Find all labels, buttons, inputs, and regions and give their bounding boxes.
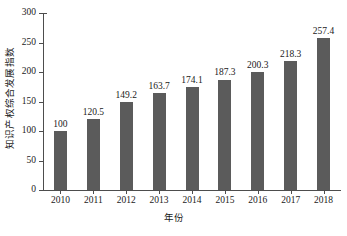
bar: [186, 87, 199, 190]
bar-value-label: 257.4: [302, 26, 346, 36]
x-tick-mark: [126, 191, 127, 194]
y-tick-mark: [39, 161, 43, 162]
y-tick-label: 200: [10, 67, 36, 77]
y-tick-mark: [39, 43, 43, 44]
x-tick-mark: [258, 191, 259, 194]
y-tick-label: 100: [10, 126, 36, 136]
x-tick-mark: [324, 191, 325, 194]
y-tick-mark: [39, 190, 43, 191]
x-tick-mark: [60, 191, 61, 194]
x-tick-mark: [291, 191, 292, 194]
bar-value-label: 200.3: [236, 60, 280, 70]
y-tick-label: 0: [10, 185, 36, 195]
bar: [54, 131, 67, 190]
plot-area: 100120.5149.2163.7174.1187.3200.3218.325…: [44, 13, 340, 190]
bar: [120, 102, 133, 190]
x-tick-mark: [159, 191, 160, 194]
x-tick-label: 2018: [304, 195, 344, 206]
bar-value-label: 149.2: [104, 90, 148, 100]
x-tick-mark: [192, 191, 193, 194]
bar: [153, 93, 166, 190]
bar-chart-figure: 知识产权综合发展指数 050100150200250300 100120.514…: [0, 0, 347, 236]
y-tick-label: 150: [10, 97, 36, 107]
x-axis-title: 年份: [0, 210, 347, 224]
y-tick-mark: [39, 13, 43, 14]
y-tick-label: 300: [10, 8, 36, 18]
x-tick-mark: [93, 191, 94, 194]
bar-value-label: 100: [38, 119, 82, 129]
bar: [284, 61, 297, 190]
y-tick-label: 250: [10, 38, 36, 48]
bar-value-label: 218.3: [269, 49, 313, 59]
bar: [251, 72, 264, 190]
bar: [218, 80, 231, 191]
bar: [317, 38, 330, 190]
bar: [87, 119, 100, 190]
y-tick-mark: [39, 102, 43, 103]
x-tick-mark: [225, 191, 226, 194]
y-tick-mark: [39, 131, 43, 132]
y-tick-mark: [39, 72, 43, 73]
y-tick-label: 50: [10, 156, 36, 166]
bar-value-label: 120.5: [71, 107, 115, 117]
